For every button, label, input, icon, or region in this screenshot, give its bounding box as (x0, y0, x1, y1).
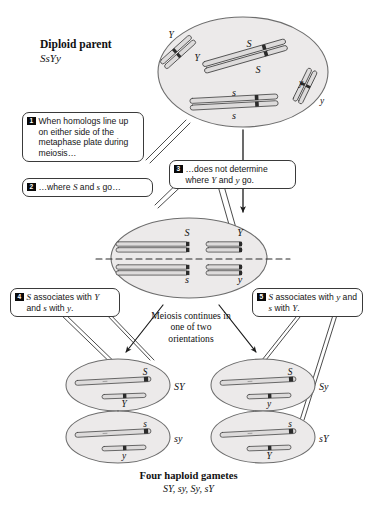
meiosis-note: Meiosis continues in one of two orientat… (148, 310, 234, 344)
callout-3[interactable]: 3 …does not determine where Y and y go. (169, 160, 296, 189)
allele-parent-s-2: s (228, 110, 240, 121)
allele-parent-y-2: y (316, 96, 328, 106)
allele-parent-y-1: y (295, 78, 307, 88)
caption-subtitle: SY, sy, Sy, sY (0, 483, 377, 494)
allele-parent-Y-2: Y (191, 53, 203, 63)
callout-1-badge: 1 (27, 117, 36, 126)
allele-gamete3-bottom: y (118, 451, 130, 461)
allele-parent-S-2: S (252, 64, 264, 75)
allele-parent-s-1: s (228, 87, 240, 98)
allele-parent-S-1: S (243, 38, 255, 49)
metaphase-cell (96, 218, 290, 298)
allele-gamete4-bottom: Y (263, 451, 275, 461)
parent-cell (158, 17, 328, 127)
allele-metaphase-s: s (181, 274, 193, 285)
allele-gamete1-bottom: Y (118, 399, 130, 409)
callout-1[interactable]: 1 When homologs line up on either side o… (22, 112, 144, 162)
allele-metaphase-y: y (234, 274, 246, 285)
allele-parent-Y-1: Y (165, 30, 177, 40)
callout-1-text: When homologs line up on either side of … (39, 116, 139, 158)
gamete-label-Sy: Sy (319, 381, 328, 392)
caption-title: Four haploid gametes (0, 470, 377, 481)
parent-label: Diploid parent (40, 38, 160, 51)
callout-2[interactable]: 2 …where S and s go… (22, 178, 153, 197)
parent-genotype: SsYy (40, 52, 61, 64)
callout-5[interactable]: 5 S associates with y and s with Y. (252, 288, 363, 317)
callout-5-text: S associates with y and s with Y. (269, 292, 358, 313)
callout-3-text: …does not determine where Y and y go. (186, 164, 291, 185)
callout-3-badge: 3 (174, 165, 183, 174)
allele-gamete2-top: S (284, 367, 296, 377)
callout-4[interactable]: 4 S associates with Y and s with y. (10, 288, 120, 317)
gamete-label-sY: sY (319, 433, 328, 444)
callout-5-badge: 5 (257, 293, 266, 302)
callout-4-text: S associates with Y and s with y. (27, 292, 115, 313)
allele-gamete4-top: s (284, 419, 296, 429)
callout-4-badge: 4 (15, 293, 24, 302)
callout-2-badge: 2 (27, 183, 36, 192)
allele-gamete3-top: s (139, 419, 151, 429)
gamete-label-sy: sy (174, 433, 182, 444)
allele-gamete1-top: S (139, 367, 151, 377)
gamete-label-SY: SY (174, 381, 185, 392)
figure-canvas: Diploid parent SsYy Y Y S S s s y y 1 Wh… (0, 0, 377, 512)
allele-metaphase-S: S (181, 227, 193, 238)
allele-metaphase-Y: Y (234, 227, 246, 238)
allele-gamete2-bottom: y (263, 399, 275, 409)
callout-2-text: …where S and s go… (39, 182, 121, 193)
